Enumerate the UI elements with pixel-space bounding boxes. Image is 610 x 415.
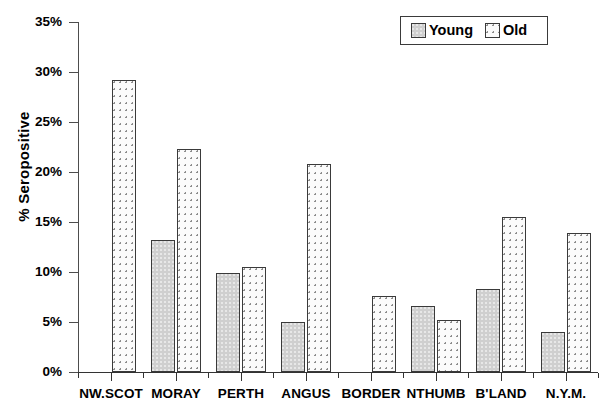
y-axis-tick [69,272,78,273]
legend-label-old: Old [503,23,527,38]
x-axis-tick [371,373,372,381]
x-axis-minor-tick [208,373,209,378]
x-axis-minor-tick [533,373,534,378]
y-axis-label: 15% [6,215,62,229]
x-axis-label-angus: ANGUS [281,386,330,401]
x-axis-tick [306,373,307,381]
bar-moray-old [177,149,201,372]
white-dotted-swatch-icon [485,23,500,38]
y-axis-label: 10% [6,265,62,279]
chart-legend: Young Old [400,16,548,45]
bar-perth-young [216,273,240,372]
x-axis-label-border: BORDER [341,386,400,401]
bar-angus-old [307,164,331,372]
x-axis-label-moray: MORAY [151,386,201,401]
y-axis-label: 35% [6,15,62,29]
x-axis-tick [501,373,502,381]
legend-entry-young: Young [411,23,473,38]
bar-moray-young [151,240,175,372]
x-axis-minor-tick [598,373,599,378]
bar-b-land-young [476,289,500,372]
y-axis-tick [69,72,78,73]
y-axis-tick [69,172,78,173]
x-axis-tick [176,373,177,381]
bar-chart: % Seropositive 0%5%10%15%20%25%30%35% NW… [0,0,610,415]
x-axis-minor-tick [143,373,144,378]
x-axis-minor-tick [78,373,79,378]
x-axis-tick [566,373,567,381]
x-axis-minor-tick [273,373,274,378]
y-axis-label: 30% [6,65,62,79]
bar-nthumb-young [411,306,435,372]
x-axis-label-n-y-m-: N.Y.M. [546,386,586,401]
y-axis-label: 5% [6,315,62,329]
x-axis-tick [111,373,112,381]
x-axis-minor-tick [403,373,404,378]
bar-perth-old [242,267,266,372]
y-axis-label: 25% [6,115,62,129]
y-axis-label: 20% [6,165,62,179]
bar-b-land-old [502,217,526,372]
bar-n-y-m--old [567,233,591,372]
legend-entry-old: Old [485,23,527,38]
x-axis-tick [436,373,437,381]
bar-nthumb-old [437,320,461,372]
y-axis-tick [69,222,78,223]
legend-label-young: Young [429,23,473,38]
x-axis-minor-tick [338,373,339,378]
x-axis-label-nw-scot: NW.SCOT [79,386,143,401]
bar-border-old [372,296,396,372]
y-axis-line [78,22,79,373]
y-axis-label: 0% [6,365,62,379]
y-axis-tick [69,22,78,23]
x-axis-label-b-land: B'LAND [475,386,526,401]
y-axis-tick [69,372,78,373]
x-axis-minor-tick [468,373,469,378]
bar-n-y-m--young [541,332,565,372]
bar-angus-young [281,322,305,372]
y-axis-tick [69,122,78,123]
x-axis-tick [241,373,242,381]
grey-solid-swatch-icon [411,23,426,38]
x-axis-label-nthumb: NTHUMB [406,386,465,401]
y-axis-tick [69,322,78,323]
x-axis-label-perth: PERTH [218,386,264,401]
bar-nw-scot-old [112,80,136,372]
